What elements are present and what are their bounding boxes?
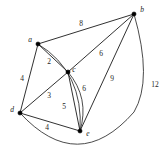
- vertex-e[interactable]: [78, 129, 82, 133]
- edge-layer: [20, 14, 144, 144]
- vertex-label-a: a: [28, 35, 32, 44]
- graph-canvas: 8 2 4 6 9 3 5 6 4 12 a b c d: [0, 0, 167, 153]
- edge-b-c[interactable]: [68, 14, 134, 72]
- edge-a-e-curved[interactable]: [38, 44, 80, 131]
- vertex-c[interactable]: [66, 70, 70, 74]
- weight-d-b-curved: 12: [151, 80, 159, 89]
- vertex-label-e: e: [86, 129, 90, 138]
- edge-b-e[interactable]: [80, 14, 134, 131]
- vertex-label-c: c: [72, 65, 76, 74]
- vertex-a[interactable]: [36, 42, 40, 46]
- weight-a-d: 4: [20, 74, 24, 83]
- weight-b-e: 9: [110, 74, 114, 83]
- edge-a-b[interactable]: [38, 14, 134, 44]
- weight-d-e: 4: [45, 123, 49, 132]
- edge-c-e-curved[interactable]: [68, 72, 83, 131]
- weighted-graph-figure: 8 2 4 6 9 3 5 6 4 12 a b c d: [0, 0, 167, 153]
- vertex-label-d: d: [10, 105, 14, 114]
- weight-c-e-curved: 6: [82, 84, 86, 93]
- vertex-label-b: b: [140, 5, 144, 14]
- weight-c-e: 5: [62, 102, 66, 111]
- vertex-b[interactable]: [132, 12, 136, 16]
- weight-b-c: 6: [99, 49, 103, 58]
- weight-a-b: 8: [79, 19, 83, 28]
- edge-a-c[interactable]: [38, 44, 68, 72]
- weight-label-layer: 8 2 4 6 9 3 5 6 4 12: [20, 19, 159, 132]
- edge-c-d[interactable]: [20, 72, 68, 113]
- weight-a-c: 2: [47, 57, 51, 66]
- weight-c-d: 3: [47, 91, 51, 100]
- vertex-d[interactable]: [18, 111, 22, 115]
